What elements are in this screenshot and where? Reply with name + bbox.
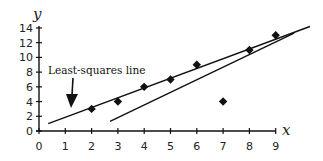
x-tick-label: 6 xyxy=(193,140,200,153)
x-tick-label: 7 xyxy=(220,140,227,153)
annotation-arrow-icon xyxy=(66,78,78,108)
x-tick-label: 2 xyxy=(88,140,95,153)
y-tick-label: 6 xyxy=(26,81,33,94)
least-squares-annotation: Least-squares line xyxy=(48,64,145,76)
y-axis-label: y xyxy=(32,5,42,23)
x-tick-label: 9 xyxy=(272,140,279,153)
y-tick-label: 12 xyxy=(19,37,33,50)
x-axis: 0123456789 xyxy=(36,128,280,153)
y-tick-label: 8 xyxy=(26,66,33,79)
scatter-chart: 02468101214 0123456789 y x Least-squares… xyxy=(0,0,323,161)
x-tick-label: 5 xyxy=(167,140,174,153)
x-tick-label: 8 xyxy=(246,140,253,153)
trend-line xyxy=(110,33,294,121)
y-tick-label: 10 xyxy=(19,51,33,64)
y-tick-label: 14 xyxy=(19,22,33,35)
x-axis-label: x xyxy=(282,121,291,139)
x-tick-label: 3 xyxy=(114,140,121,153)
data-point-diamond-icon xyxy=(219,97,227,105)
y-tick-label: 0 xyxy=(26,125,33,138)
x-tick-label: 1 xyxy=(62,140,69,153)
x-tick-label: 4 xyxy=(141,140,148,153)
x-tick-label: 0 xyxy=(36,140,43,153)
y-tick-label: 2 xyxy=(26,110,33,123)
y-tick-label: 4 xyxy=(26,96,33,109)
y-axis: 02468101214 xyxy=(19,22,42,138)
